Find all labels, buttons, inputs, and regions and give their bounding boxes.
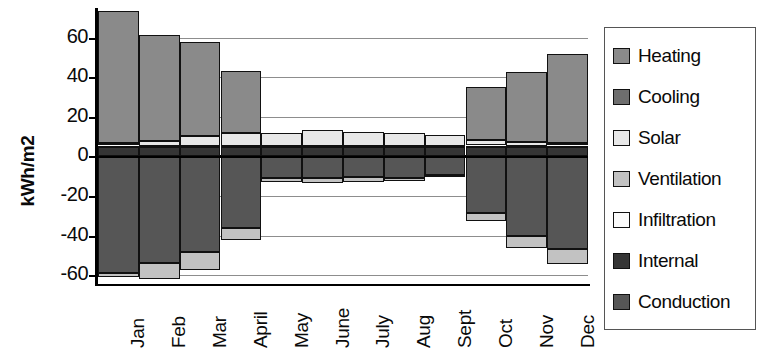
bar-segment: [98, 11, 139, 143]
plot-area: [98, 8, 588, 285]
bar-group: [547, 8, 588, 285]
bar-segment: [384, 147, 425, 156]
legend-item-ventilation[interactable]: Ventilation: [613, 158, 755, 199]
bar-segment: [302, 130, 343, 146]
bar-segment: [302, 147, 343, 156]
x-axis-tick-label: Sept: [454, 310, 476, 348]
legend-swatch-icon: [613, 48, 630, 64]
legend-swatch-icon: [613, 130, 630, 146]
bar-group: [425, 8, 466, 285]
bar-segment: [506, 156, 547, 235]
y-axis-tick-label: 40: [8, 64, 88, 87]
legend-item-conduction[interactable]: Conduction: [613, 281, 755, 322]
bar-segment: [343, 132, 384, 146]
legend-swatch-icon: [613, 294, 630, 310]
legend-item-label: Heating: [638, 45, 701, 67]
bar-segment: [466, 147, 507, 156]
x-axis-tick-label: May: [291, 313, 313, 348]
bar-segment: [425, 156, 466, 175]
bar-segment: [547, 143, 588, 146]
bar-segment: [180, 136, 221, 146]
bar-segment: [139, 147, 180, 156]
legend-swatch-icon: [613, 89, 630, 105]
bar-segment: [506, 236, 547, 249]
y-axis-tick-label: -60: [8, 262, 88, 285]
bar-segment: [98, 147, 139, 156]
bar-segment: [98, 273, 139, 277]
bar-segment: [466, 87, 507, 139]
bar-segment: [302, 156, 343, 178]
y-axis-tick-label: -20: [8, 183, 88, 206]
bar-segment: [384, 133, 425, 146]
legend-swatch-icon: [613, 212, 630, 228]
x-axis-tick-label: Jan: [127, 318, 149, 348]
bar-group: [384, 8, 425, 285]
bar-group: [180, 8, 221, 285]
bar-segment: [221, 147, 262, 156]
bar-segment: [343, 177, 384, 182]
bar-segment: [506, 72, 547, 141]
bar-segment: [547, 54, 588, 143]
legend-item-solar[interactable]: Solar: [613, 117, 755, 158]
bar-segment: [425, 175, 466, 177]
bar-segment: [180, 42, 221, 136]
bar-group: [506, 8, 547, 285]
legend-item-label: Conduction: [638, 291, 730, 313]
bar-segment: [261, 133, 302, 146]
bar-segment: [466, 140, 507, 146]
bar-segment: [180, 147, 221, 156]
bar-segment: [261, 156, 302, 178]
bar-group: [139, 8, 180, 285]
bar-segment: [384, 156, 425, 178]
bar-group: [302, 8, 343, 285]
legend-item-internal[interactable]: Internal: [613, 240, 755, 281]
bar-group: [343, 8, 384, 285]
legend-item-label: Infiltration: [638, 209, 716, 231]
bar-group: [466, 8, 507, 285]
bar-segment: [180, 156, 221, 252]
bar-segment: [466, 213, 507, 221]
bar-segment: [384, 178, 425, 181]
bar-segment: [261, 147, 302, 156]
bar-segment: [506, 142, 547, 146]
legend-swatch-icon: [613, 253, 630, 269]
legend-item-infiltration[interactable]: Infiltration: [613, 199, 755, 240]
bar-segment: [221, 228, 262, 241]
y-axis-tick-labels: 6040200-20-40-60: [0, 0, 88, 355]
bar-segment: [506, 147, 547, 156]
x-axis-tick-label: Oct: [495, 319, 517, 348]
legend-item-label: Ventilation: [638, 168, 721, 190]
legend-item-cooling[interactable]: Cooling: [613, 76, 755, 117]
x-axis-tick-label: Aug: [413, 315, 435, 348]
bar-segment: [221, 156, 262, 227]
bar-segment: [221, 133, 262, 146]
x-axis-tick-label: April: [250, 311, 272, 348]
x-axis-tick-label: Mar: [209, 316, 231, 348]
bar-segment: [261, 178, 302, 182]
bar-segment: [221, 71, 262, 132]
bar-segment: [425, 147, 466, 156]
bar-segment: [425, 135, 466, 146]
bar-segment: [343, 156, 384, 177]
bar-segment: [139, 156, 180, 263]
legend-item-heating[interactable]: Heating: [613, 35, 755, 76]
y-axis-tick-label: -40: [8, 223, 88, 246]
bar-segment: [180, 252, 221, 270]
x-axis-tick-label: Dec: [577, 315, 599, 348]
x-axis-tick-label: Nov: [536, 315, 558, 348]
bar-segment: [98, 143, 139, 146]
bar-segment: [547, 156, 588, 249]
bar-segment: [302, 178, 343, 183]
bar-segment: [139, 263, 180, 279]
bar-group: [221, 8, 262, 285]
legend-swatch-icon: [613, 171, 630, 187]
x-axis-tick-label: Feb: [168, 316, 190, 348]
legend-item-label: Solar: [638, 127, 680, 149]
bar-segment: [547, 249, 588, 264]
bar-group: [261, 8, 302, 285]
bar-segment: [98, 156, 139, 273]
bar-group: [98, 8, 139, 285]
x-axis-tick-label: June: [332, 308, 354, 348]
chart-legend: HeatingCoolingSolarVentilationInfiltrati…: [604, 27, 756, 330]
y-axis-tick-label: 0: [8, 143, 88, 166]
